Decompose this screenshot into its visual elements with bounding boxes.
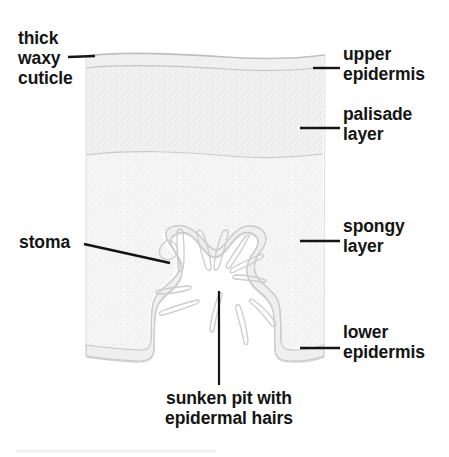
label-stoma-text: stoma bbox=[19, 232, 70, 252]
label-palisade-line2: layer bbox=[343, 124, 412, 144]
palisade-layer-region bbox=[86, 66, 324, 158]
leaf-cross-section-diagram: thick waxy cuticle stoma upper epidermis… bbox=[0, 0, 449, 457]
page-smudge bbox=[16, 450, 216, 453]
label-palisade-line1: palisade bbox=[343, 104, 412, 124]
label-spongy-layer: spongy layer bbox=[343, 216, 405, 256]
label-thick-waxy-cuticle: thick waxy cuticle bbox=[18, 28, 73, 88]
label-palisade-layer: palisade layer bbox=[343, 104, 412, 144]
right-cut-edge bbox=[324, 56, 325, 345]
label-upper-epidermis-line1: upper bbox=[343, 44, 425, 64]
label-lower-epidermis-line2: epidermis bbox=[343, 342, 425, 362]
label-sunken-pit-line2: epidermal hairs bbox=[149, 408, 309, 428]
label-lower-epidermis-line1: lower bbox=[343, 322, 425, 342]
label-stoma: stoma bbox=[19, 232, 70, 252]
label-upper-epidermis: upper epidermis bbox=[343, 44, 425, 84]
label-cuticle-line2: waxy bbox=[18, 48, 73, 68]
label-lower-epidermis: lower epidermis bbox=[343, 322, 425, 362]
leaf-tissue-block bbox=[86, 53, 325, 351]
label-spongy-line1: spongy bbox=[343, 216, 405, 236]
label-sunken-pit-line1: sunken pit with bbox=[149, 388, 309, 408]
label-upper-epidermis-line2: epidermis bbox=[343, 64, 425, 84]
label-sunken-pit: sunken pit with epidermal hairs bbox=[149, 388, 309, 428]
label-cuticle-line1: thick bbox=[18, 28, 73, 48]
label-spongy-line2: layer bbox=[343, 236, 405, 256]
label-cuticle-line3: cuticle bbox=[18, 68, 73, 88]
